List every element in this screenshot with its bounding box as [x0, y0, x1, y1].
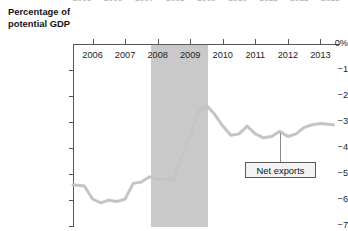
net-exports-callout: Net exports	[245, 162, 316, 178]
net-exports-line	[73, 105, 333, 203]
net-exports-chart-figure: 200520062007200820092010201120122013 Per…	[0, 0, 348, 231]
callout-leader-line	[280, 133, 281, 163]
net-exports-callout-label: Net exports	[257, 165, 305, 176]
plot-area	[0, 0, 348, 231]
